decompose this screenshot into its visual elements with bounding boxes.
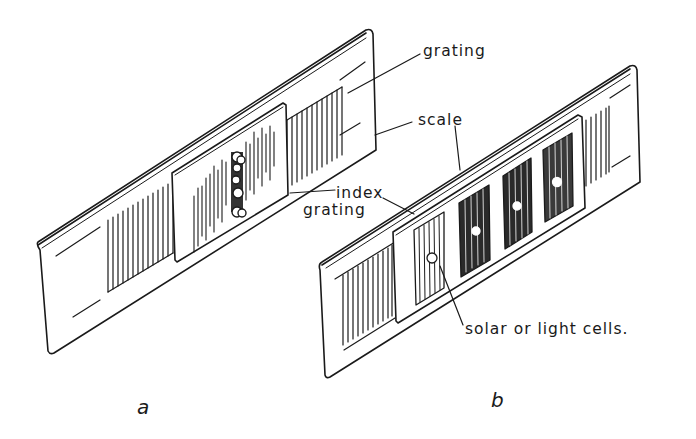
label-index-line1: index [336,184,383,202]
optical-grating-diagram: grating scale index grating solar or lig… [0,0,696,439]
label-grating: grating [423,42,486,60]
label-solar-light-cells: solar or light cells. [465,320,628,338]
label-scale: scale [418,111,463,129]
label-index-line2: grating [303,201,366,219]
caption-panel-b: b [491,388,504,412]
caption-panel-a: a [137,395,149,419]
